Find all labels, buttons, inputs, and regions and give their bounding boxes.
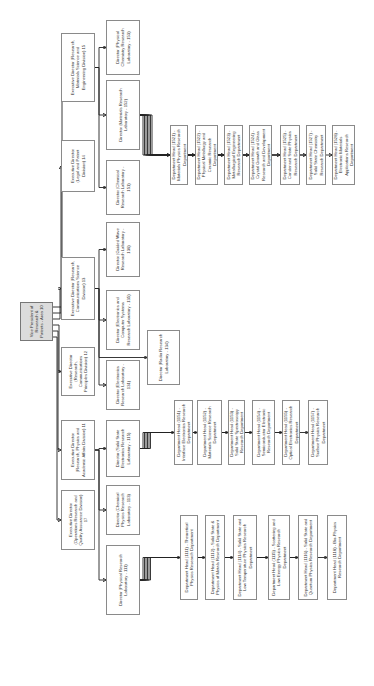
- division-box-11: Executive Director (Research, Physics an…: [61, 420, 95, 480]
- department-box: Department Head (1521) - Materials Physi…: [170, 125, 188, 185]
- department-box: Department Head (1524) - Crystal Growth …: [249, 125, 272, 185]
- division-box-13: Executive Director (Research, Communicat…: [61, 257, 95, 320]
- department-box: Department Head (1116) - Solid State and…: [298, 515, 318, 600]
- lab-box-115: Director (Solid State Electronics Resear…: [106, 420, 140, 477]
- lab-box-136: Director (Guided Wave Research Laborator…: [106, 222, 140, 277]
- department-box: Department Head (1112) - Solid State & P…: [205, 515, 225, 600]
- department-box: Department Head (1118) - Bio-Physics Res…: [327, 515, 347, 600]
- lab-box-131: Director (Electronics Research Laborator…: [106, 360, 140, 410]
- department-box: Department Head (1114) - Solid State and…: [233, 515, 257, 600]
- department-box: Department Head (1528) - Electronic Mate…: [332, 125, 355, 185]
- lab-box-134: Director (Radio Research Laboratory - 13…: [147, 330, 180, 385]
- department-box: Department Head (1157) - Surface Physics…: [308, 400, 328, 465]
- division-box-15: Executive Director (Research, Materials …: [61, 33, 95, 102]
- org-chart: Vice President of Research & Patents - A…: [0, 0, 374, 686]
- department-box: Department Head (1111) - Theoretical Phy…: [180, 515, 198, 600]
- department-box: Department Head (1154) - Semiconductor E…: [252, 400, 275, 465]
- lab-box-111: Director (Physical Research Laboratory -…: [106, 545, 140, 615]
- lab-box-113: Director (Chemical Physics Research Labo…: [106, 485, 140, 535]
- department-box: Department Head (1115) - Scattering and …: [268, 515, 290, 600]
- department-box: Department Head (1527) - Solid State Che…: [306, 125, 326, 185]
- division-box-12: Executive Director (Research, Communicat…: [61, 347, 95, 396]
- lab-box-152: Director (Materials Research Laboratory …: [106, 80, 140, 150]
- department-box: Department Head (1153) - Solid State Spe…: [228, 400, 245, 465]
- department-box: Department Head (1523) - Metallurgical E…: [224, 125, 243, 185]
- department-box: Department Head (1155) - Optical Electro…: [282, 400, 300, 465]
- department-box: Department Head (1152) - Materials Scien…: [197, 400, 222, 465]
- division-box-14: Executive Director (Legal and Patent Div…: [61, 140, 95, 192]
- department-box: Department Head (1151) - Interface Elect…: [174, 400, 193, 465]
- lab-box-135: Director (Electronics and Computer Syste…: [106, 290, 140, 350]
- root-box-vp-research: Vice President of Research & Patents - A…: [20, 302, 53, 341]
- division-box-17: Executive Director (Operations Research …: [61, 490, 95, 550]
- department-box: Department Head (1525) - Condensed State…: [280, 125, 300, 185]
- department-box: Department Head (1522) - Physical Metall…: [195, 125, 218, 185]
- lab-box-153: Director (Physical Chemistry Research La…: [106, 20, 140, 75]
- lab-box-151: Director (Chemical Research Laboratory -…: [106, 160, 140, 215]
